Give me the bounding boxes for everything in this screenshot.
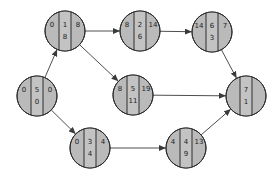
- node-value-mid-bottom: 1: [244, 98, 248, 106]
- node-value-right: 0: [48, 86, 52, 94]
- node-value-mid-top: 2: [138, 21, 142, 29]
- node-value-mid-bottom: 6: [138, 33, 143, 41]
- node-value-mid-bottom: 0: [35, 98, 39, 106]
- node-b: 82614: [120, 11, 160, 51]
- edge-arrow-c-to-end: [221, 50, 236, 78]
- node-value-left: 14: [195, 22, 204, 30]
- node-value-left: 4: [171, 138, 176, 146]
- node-middle-column: [240, 76, 252, 116]
- node-d: 851119: [113, 75, 153, 115]
- node-value-right: 4: [101, 138, 106, 146]
- node-middle-column: [206, 12, 218, 52]
- node-value-mid-bottom: 8: [63, 33, 67, 41]
- node-value-right: 14: [149, 21, 158, 29]
- node-middle-column: [134, 11, 146, 51]
- node-value-mid-bottom: 11: [129, 97, 138, 105]
- node-value-right: 7: [223, 22, 227, 30]
- nodes-layer: 05000188826141463785111903444491371: [17, 11, 266, 168]
- network-diagram: 05000188826141463785111903444491371: [0, 0, 280, 177]
- node-value-mid-top: 5: [35, 86, 39, 94]
- node-end: 71: [226, 76, 266, 116]
- edge-arrow-start-to-a: [45, 50, 57, 78]
- node-value-mid-bottom: 9: [184, 150, 188, 158]
- node-value-left: 0: [22, 86, 26, 94]
- node-a: 0188: [45, 11, 85, 51]
- node-middle-column: [59, 11, 71, 51]
- node-middle-column: [31, 76, 43, 116]
- node-value-mid-top: 7: [244, 86, 248, 94]
- node-c: 14637: [192, 12, 232, 52]
- node-value-mid-top: 4: [184, 138, 189, 146]
- edge-arrow-a-to-d: [80, 45, 119, 81]
- node-value-right: 13: [195, 138, 204, 146]
- node-value-right: 8: [76, 21, 80, 29]
- node-value-mid-bottom: 3: [210, 34, 214, 42]
- node-value-left: 0: [75, 138, 79, 146]
- node-value-mid-bottom: 4: [88, 150, 93, 158]
- edge-arrow-start-to-e: [51, 110, 75, 134]
- node-value-left: 0: [50, 21, 54, 29]
- node-e: 0344: [70, 128, 110, 168]
- node-value-mid-top: 5: [131, 85, 135, 93]
- edge-arrow-d-to-end: [153, 95, 226, 96]
- node-value-left: 8: [118, 85, 122, 93]
- node-value-mid-top: 3: [88, 138, 92, 146]
- node-f: 44913: [166, 128, 206, 168]
- node-middle-column: [84, 128, 96, 168]
- edge-arrow-f-to-end: [201, 109, 230, 134]
- node-value-mid-top: 1: [63, 21, 67, 29]
- node-middle-column: [127, 75, 139, 115]
- node-middle-column: [180, 128, 192, 168]
- node-start: 0500: [17, 76, 57, 116]
- node-value-left: 8: [125, 21, 129, 29]
- node-value-mid-top: 6: [210, 22, 215, 30]
- node-value-right: 19: [142, 85, 151, 93]
